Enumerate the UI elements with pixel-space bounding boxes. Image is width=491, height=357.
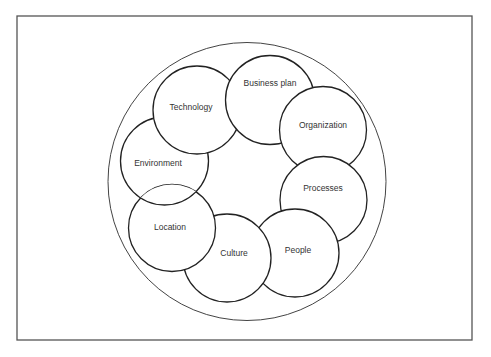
node-label-organization: Organization (299, 120, 347, 130)
node-label-processes: Processes (303, 183, 343, 193)
node-label-business-plan: Business plan (244, 78, 297, 88)
node-label-culture: Culture (220, 248, 248, 258)
node-label-technology: Technology (169, 102, 213, 112)
node-label-environment: Environment (134, 158, 182, 168)
node-label-location: Location (154, 222, 186, 232)
diagram-canvas: EnvironmentTechnologyBusiness planOrgani… (0, 0, 491, 357)
node-label-people: People (285, 245, 312, 255)
